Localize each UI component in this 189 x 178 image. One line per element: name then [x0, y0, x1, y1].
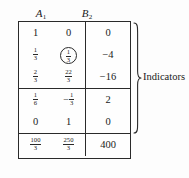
table-row: 0 1 0	[19, 111, 130, 133]
cell-value: −4	[102, 50, 113, 61]
tableau-figure: A1 B2 1 0 0	[0, 0, 189, 178]
cell-a: 0	[19, 117, 52, 128]
fraction: 1 3	[33, 47, 37, 62]
row-variable-cells: 2 3 22 3	[19, 66, 85, 88]
fraction-denominator: 3	[66, 57, 70, 64]
cell-value: 1	[33, 27, 38, 38]
cell-a: 100 3	[19, 138, 52, 153]
right-brace-icon	[133, 22, 142, 134]
tableau-section-indicator-rows: 1 0 0 1 3	[19, 22, 130, 88]
row-variable-cells: 1 3 1 3	[19, 44, 85, 66]
cell-value: 0	[105, 28, 110, 39]
tableau-table: 1 0 0 1 3	[18, 21, 131, 159]
tableau-section-basic-rows: 1 6 − 1 3 2	[19, 88, 130, 133]
table-row: 100 3 250 3 400	[19, 134, 130, 156]
fraction: 1 6	[33, 92, 37, 107]
fraction: 250 3	[63, 137, 74, 152]
cell-b: 250 3	[52, 138, 85, 153]
table-row: 2 3 22 3 −16	[19, 66, 130, 88]
fraction-denominator: 3	[30, 145, 41, 152]
fraction-denominator: 3	[65, 77, 73, 84]
row-variable-cells: 0 1	[19, 111, 85, 133]
table-row: 1 6 − 1 3 2	[19, 89, 130, 111]
cell-b-pivot: 1 3	[52, 47, 85, 64]
cell-a: 1 3	[19, 48, 52, 63]
row-variable-cells: 100 3 250 3	[19, 134, 85, 156]
column-header-a1-subscript: 1	[43, 13, 47, 21]
column-headers: A1 B2	[18, 5, 110, 21]
tableau-section-objective-row: 100 3 250 3 400	[19, 133, 130, 156]
cell-rhs: 0	[85, 22, 130, 44]
fraction: 100 3	[30, 137, 41, 152]
fraction-denominator: 6	[33, 100, 37, 107]
cell-value: 0	[66, 27, 71, 38]
fraction: 1 3	[66, 49, 70, 64]
cell-value: 0	[105, 117, 110, 128]
cell-rhs: 2	[85, 89, 130, 111]
row-variable-cells: 1 0	[19, 22, 85, 44]
cell-value: 0	[33, 116, 38, 127]
table-row: 1 3 1 3 −4	[19, 44, 130, 66]
cell-b: 0	[52, 28, 85, 39]
row-variable-cells: 1 6 − 1 3	[19, 89, 85, 111]
cell-value: 2	[105, 95, 110, 106]
table-row: 1 0 0	[19, 22, 130, 44]
cell-value: 1	[66, 116, 71, 127]
cell-b: 22 3	[52, 70, 85, 85]
fraction: 22 3	[65, 69, 73, 84]
cell-value: −16	[100, 72, 116, 83]
cell-rhs: 0	[85, 111, 130, 133]
fraction-denominator: 3	[33, 77, 37, 84]
fraction-denominator: 3	[69, 100, 73, 107]
fraction: 2 3	[33, 69, 37, 84]
cell-b: 1	[52, 117, 85, 128]
fraction-denominator: 3	[33, 55, 37, 62]
fraction: 1 3	[69, 92, 73, 107]
fraction-denominator: 3	[63, 145, 74, 152]
cell-rhs: −4	[85, 44, 130, 66]
cell-rhs: 400	[85, 134, 130, 156]
column-header-b2: B2	[64, 5, 110, 21]
minus-sign: −	[63, 94, 69, 105]
cell-value: 400	[100, 140, 116, 151]
indicators-label: Indicators	[143, 70, 185, 83]
column-header-a1-label: A	[36, 7, 43, 19]
cell-a: 1 6	[19, 93, 52, 108]
cell-rhs: −16	[85, 66, 130, 88]
column-header-b2-label: B	[82, 7, 89, 19]
column-header-b2-subscript: 2	[89, 13, 93, 21]
pivot-circle-marker: 1 3	[60, 47, 77, 64]
cell-b: − 1 3	[52, 93, 85, 108]
cell-a: 1	[19, 28, 52, 39]
column-header-a1: A1	[18, 5, 64, 21]
cell-a: 2 3	[19, 70, 52, 85]
